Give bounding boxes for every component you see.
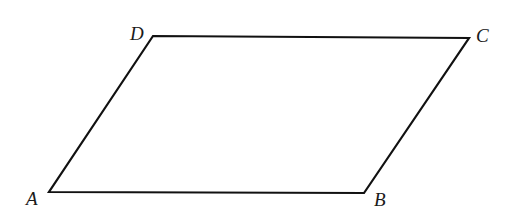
vertex-label-d: D bbox=[129, 23, 144, 44]
parallelogram-abcd bbox=[49, 36, 469, 193]
vertex-label-c: C bbox=[476, 25, 489, 46]
vertex-label-b: B bbox=[374, 189, 386, 210]
parallelogram-figure: A B C D bbox=[0, 0, 517, 213]
vertex-label-a: A bbox=[24, 188, 38, 209]
